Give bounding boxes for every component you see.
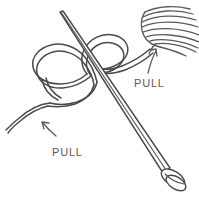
pull-label-lower: PULL: [52, 146, 83, 158]
pull-arrow-lower: [42, 122, 56, 136]
illustration-canvas: PULL PULL: [0, 0, 199, 201]
slip-knot-illustration: PULL PULL: [0, 0, 199, 201]
needle-knob: [158, 165, 188, 194]
pull-label-upper: PULL: [134, 77, 165, 89]
